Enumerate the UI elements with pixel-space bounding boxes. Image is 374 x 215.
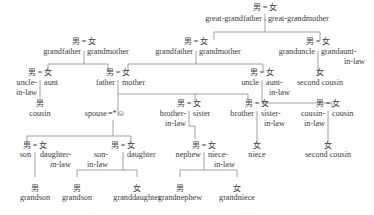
family-tree-diagram: 男 = 女 great-grandfather great-grandmothe… bbox=[0, 0, 374, 215]
label-niece-in-law: in-law bbox=[214, 160, 235, 169]
node-grandson-2: 男 grandson bbox=[62, 184, 92, 202]
node-granddaughter: 女 granddaughter bbox=[113, 183, 161, 202]
node-uncle-aunt-in-law: 男 = 女 uncle aunt- in-law bbox=[241, 67, 290, 97]
node-cousin: 男 cousin bbox=[29, 99, 50, 118]
label-granduncle: granduncle bbox=[279, 47, 316, 56]
label-uncle: uncle- bbox=[17, 78, 38, 87]
label-second-cousin: second cousin bbox=[305, 150, 351, 159]
couple-symbol: 男 = 女 bbox=[184, 36, 209, 46]
label-sister: sister- bbox=[261, 109, 281, 118]
label-daughter: daughter bbox=[127, 150, 156, 159]
node-grandson-1: 男 grandson bbox=[20, 184, 50, 202]
node-self: spouse =*☺ bbox=[85, 109, 125, 118]
label-great-grandmother: great-grandmother bbox=[268, 14, 329, 23]
label-granddaughter: granddaughter bbox=[113, 193, 161, 202]
label-daughter-in-law: in-law bbox=[50, 160, 71, 169]
label-son: son bbox=[20, 150, 31, 159]
label-father: father bbox=[96, 78, 115, 87]
node-father-mother: 男 = 女 father mother bbox=[96, 67, 146, 87]
label-brother: brother- bbox=[160, 109, 186, 118]
female-symbol: 女 bbox=[324, 140, 332, 150]
label-grandniece: grandniece bbox=[219, 193, 255, 202]
label-grandaunt-in-law: in-law bbox=[344, 57, 365, 66]
node-nephew-niece-in-law: 男 = 女 nephew niece- in-law bbox=[176, 140, 235, 169]
label-brother-in-law: in-law bbox=[165, 119, 186, 128]
node-niece: 女 niece bbox=[248, 140, 266, 159]
couple-symbol: 男 = 女 bbox=[177, 98, 202, 108]
label-second-cousin: second cousin bbox=[297, 78, 343, 87]
male-symbol: 男 bbox=[176, 184, 184, 193]
label-great-grandfather: great-grandfather bbox=[205, 14, 262, 23]
node-brother-in-law-sister: 男 = 女 brother- in-law sister bbox=[160, 98, 211, 128]
label-brother: brother bbox=[230, 109, 254, 118]
label-nephew: nephew bbox=[176, 150, 202, 159]
male-symbol: 男 bbox=[36, 99, 44, 108]
couple-symbol: 男 = 女 bbox=[245, 98, 270, 108]
node-granduncle: 男 = 女 granduncle grandaunt- in-law bbox=[279, 36, 365, 66]
male-symbol: 男 bbox=[73, 184, 81, 193]
couple-symbol: 男 = 女 bbox=[316, 98, 341, 108]
node-grandparents-center: 男 = 女 grandfather grandmother bbox=[155, 36, 241, 56]
label-uncle: uncle bbox=[241, 78, 259, 87]
couple-symbol: 男 = 女 bbox=[23, 140, 48, 150]
label-sister: sister bbox=[193, 109, 211, 118]
label-uncle-in-law: in-law bbox=[16, 88, 37, 97]
female-symbol: 女 bbox=[316, 67, 324, 77]
label-grandnephew: grandnephew bbox=[158, 193, 202, 202]
label-aunt: aunt bbox=[44, 78, 59, 87]
label-grandfather: grandfather bbox=[155, 47, 193, 56]
label-son: son- bbox=[94, 150, 108, 159]
couple-symbol: 男 = 女 bbox=[72, 36, 97, 46]
node-grandniece: 女 grandniece bbox=[219, 183, 255, 202]
couple-symbol: 男 = 女 bbox=[106, 67, 131, 77]
node-uncle-in-law-aunt: 男 = 女 uncle- in-law aunt bbox=[16, 67, 59, 97]
label-mother: mother bbox=[122, 78, 145, 87]
couple-symbol: 男 = 女 bbox=[306, 36, 331, 46]
node-grandparents-left: 男 = 女 grandfather grandmother bbox=[43, 36, 129, 56]
female-symbol: 女 bbox=[233, 183, 241, 193]
couple-symbol: 男 = 女 bbox=[111, 140, 136, 150]
label-grandson: grandson bbox=[20, 193, 50, 202]
male-symbol: 男 bbox=[31, 184, 39, 193]
label-cousin-in-law: in-law bbox=[304, 119, 325, 128]
label-cousin: cousin- bbox=[301, 109, 325, 118]
label-cousin: cousin bbox=[29, 109, 50, 118]
label-spouse: spouse bbox=[85, 109, 108, 118]
label-grandfather: grandfather bbox=[43, 47, 81, 56]
label-aunt: aunt- bbox=[266, 78, 283, 87]
label-son-in-law: in-law bbox=[87, 160, 108, 169]
label-grandmother: grandmother bbox=[87, 47, 129, 56]
couple-symbol: 男 = 女 bbox=[253, 2, 278, 12]
label-grandaunt: grandaunt- bbox=[321, 47, 357, 56]
female-symbol: 女 bbox=[253, 140, 261, 150]
label-cousin-right: cousin bbox=[332, 109, 353, 118]
couple-symbol: 男 = 女 bbox=[250, 67, 275, 77]
label-daughter: daughter- bbox=[40, 150, 71, 159]
label-niece: niece bbox=[248, 150, 266, 159]
node-grandnephew: 男 grandnephew bbox=[158, 184, 202, 202]
self-marker: =*☺ bbox=[108, 109, 125, 118]
label-grandson: grandson bbox=[62, 193, 92, 202]
label-grandmother: grandmother bbox=[199, 47, 241, 56]
node-son-in-law-daughter: 男 = 女 son- in-law daughter bbox=[87, 140, 156, 169]
female-symbol: 女 bbox=[133, 183, 141, 193]
couple-symbol: 男 = 女 bbox=[192, 140, 217, 150]
couple-symbol: 男 = 女 bbox=[28, 67, 53, 77]
node-son-daughter-in-law: 男 = 女 son daughter- in-law bbox=[20, 140, 72, 169]
node-second-cousin-top: 女 second cousin bbox=[297, 67, 343, 87]
node-brother-sister-in-law: 男 = 女 brother sister- in-law bbox=[230, 98, 285, 128]
label-sister-in-law: in-law bbox=[264, 119, 285, 128]
node-second-cousin-bottom: 女 second cousin bbox=[305, 140, 351, 159]
label-niece: niece- bbox=[208, 150, 228, 159]
node-cousin-in-law-cousin: 男 = 女 cousin- in-law cousin bbox=[301, 98, 354, 128]
node-great-grandparents: 男 = 女 great-grandfather great-grandmothe… bbox=[205, 2, 329, 23]
label-aunt-in-law: in-law bbox=[269, 88, 290, 97]
